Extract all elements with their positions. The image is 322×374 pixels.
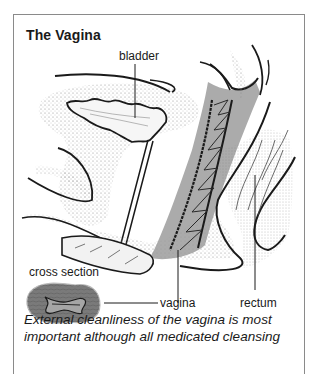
caption-line-1: External cleanliness of the vagina is mo… [24,311,304,328]
figure-caption: External cleanliness of the vagina is mo… [24,311,304,345]
label-rectum: rectum [240,296,277,310]
caption-line-2: important although all medicated cleansi… [24,328,304,345]
label-cross-section: cross section [29,265,99,279]
label-bladder: bladder [119,49,159,63]
label-vagina: vagina [160,296,195,310]
